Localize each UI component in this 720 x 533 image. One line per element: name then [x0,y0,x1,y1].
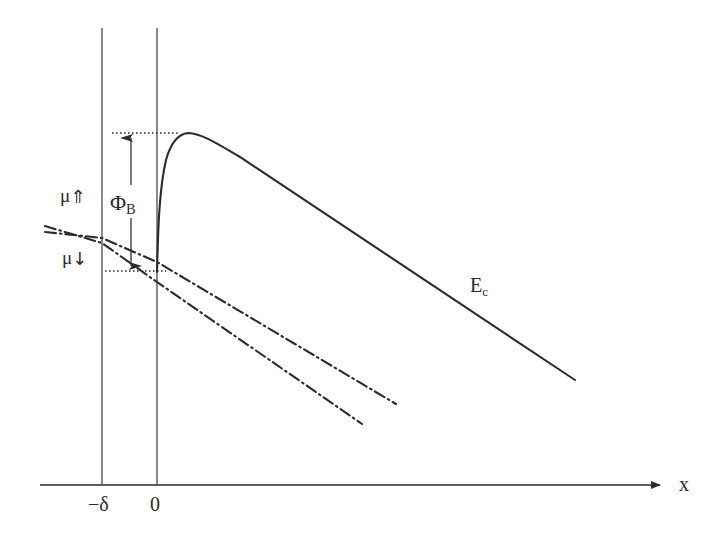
mu-down-symbol: μ [62,247,72,268]
tick-label-minus-delta: −δ [88,494,109,514]
ec-symbol: E [470,274,482,296]
conduction-band-curve [157,133,575,380]
conduction-band-label: Ec [470,275,488,298]
x-axis-label: x [679,474,689,494]
mu-down-line [45,226,362,424]
schottky-barrier-band-diagram: μ⇑ μ↓ ΦB Ec x −δ 0 [0,0,720,533]
barrier-height-label: ΦB [110,192,136,217]
phi-subscript: B [126,201,136,217]
diagram-canvas [0,0,720,533]
arrow-down-icon: ↓ [72,248,87,269]
arrow-up-double-icon: ⇑ [70,186,85,207]
tick-label-zero: 0 [150,494,160,514]
mu-down-label: μ↓ [62,248,87,268]
ec-subscript: c [482,284,488,299]
mu-up-symbol: μ [60,185,70,206]
phi-symbol: Φ [110,190,126,215]
mu-up-label: μ⇑ [60,186,85,206]
mu-up-line [45,232,396,404]
